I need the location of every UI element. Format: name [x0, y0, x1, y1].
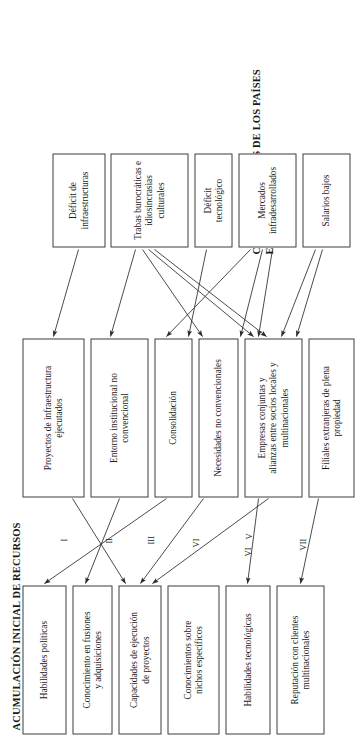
resource-box-reputacion-clientes-multinacionales[interactable]: Reputación con clientes multinacionales — [276, 585, 324, 734]
characteristic-box-deficit-tecnologico[interactable]: Déficit tecnológico — [194, 153, 232, 247]
diagram-stage: ACUMULACIÓN INICIAL DE RECURSOS CARACTER… — [0, 0, 361, 746]
resource-box-conocimiento-fusiones-adquisiciones[interactable]: Conocimiento en fusiones y adquisiciones — [72, 585, 112, 734]
mechanism-box-necesidades-no-convencionales[interactable]: Necesidades no convencionales — [198, 338, 238, 497]
mechanism-box-entorno-institucional-no-convencional[interactable]: Entorno institucional no convencional — [90, 338, 148, 497]
mechanism-box-proyectos-infraestructura-ejecutados[interactable]: Proyectos de infraestructura ejecutados — [22, 338, 84, 497]
characteristic-box-mercados-infradesarrollados[interactable]: Mercados infradesarrollados — [238, 153, 296, 247]
resource-box-capacidades-ejecucion-proyectos[interactable]: Capacidades de ejecución de proyectos — [118, 585, 161, 734]
roman-numeral-vi-a: VI — [190, 538, 200, 547]
roman-numeral-iii: III — [145, 535, 155, 544]
mechanism-box-filiales-extranjeras-plena-propiedad[interactable]: Filiales extranjeras de plena propiedad — [308, 338, 354, 497]
mechanism-box-consolidacion[interactable]: Consolidación — [154, 338, 192, 497]
characteristic-box-salarios-bajos[interactable]: Salarios bajos — [302, 153, 350, 247]
roman-numeral-v: V — [243, 533, 253, 539]
characteristic-box-trabas-burocraticas-idiosincrasias[interactable]: Trabas burocráticas e idiosincrasias cul… — [110, 153, 188, 247]
roman-numeral-i: I — [58, 538, 68, 541]
roman-numeral-vii: VII — [297, 538, 307, 550]
resource-box-habilidades-politicas[interactable]: Habilidades políticas — [22, 585, 66, 734]
roman-numeral-vi-b: VI — [242, 547, 252, 556]
characteristic-box-deficit-infraestructuras[interactable]: Déficit de infraestructuras — [52, 153, 105, 247]
resource-box-habilidades-tecnologicas[interactable]: Habilidades tecnológicas — [225, 585, 270, 734]
mechanism-box-empresas-conjuntas-alianzas[interactable]: Empresas conjuntas y alianzas entre soci… — [244, 338, 302, 497]
roman-numeral-ii: II — [103, 537, 113, 543]
diagram-canvas: ACUMULACIÓN INICIAL DE RECURSOS CARACTER… — [0, 0, 361, 746]
resource-box-conocimientos-nichos-especificos[interactable]: Conocimientos sobre nichos específicos — [167, 585, 219, 734]
